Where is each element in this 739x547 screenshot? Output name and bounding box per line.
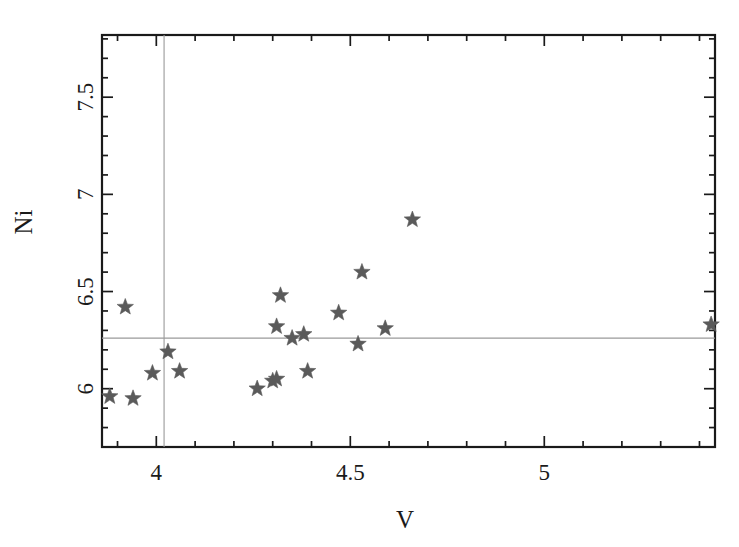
- x-tick-label: 4: [151, 460, 163, 485]
- data-point-star: [330, 304, 346, 320]
- x-tick-label: 5: [539, 460, 551, 485]
- scatter-plot-figure: 44.55 66.577.5 V Ni: [0, 0, 739, 547]
- data-point-star: [160, 343, 176, 359]
- plot-frame: [102, 35, 715, 447]
- data-point-star: [268, 318, 284, 334]
- data-point-star: [377, 320, 393, 336]
- data-point-star: [125, 390, 141, 406]
- data-points: [102, 211, 720, 405]
- data-point-star: [249, 380, 265, 396]
- data-point-star: [102, 388, 118, 404]
- data-point-star: [354, 263, 370, 279]
- x-axis-title: V: [396, 506, 414, 533]
- data-point-star: [117, 298, 133, 314]
- y-tick-label: 7: [73, 189, 98, 201]
- reference-lines: [102, 35, 715, 447]
- plot-border: [102, 35, 715, 447]
- x-tick-label: 4.5: [336, 460, 365, 485]
- data-point-star: [272, 287, 288, 303]
- y-tick-label: 6.5: [73, 277, 98, 306]
- data-point-star: [171, 363, 187, 379]
- data-point-star: [404, 211, 420, 227]
- y-axis-title: Ni: [10, 209, 37, 234]
- y-tick-label: 7.5: [73, 83, 98, 112]
- data-point-star: [144, 365, 160, 381]
- y-tick-label: 6: [73, 383, 98, 395]
- data-point-star: [703, 316, 719, 332]
- data-point-star: [296, 326, 312, 342]
- data-point-star: [299, 363, 315, 379]
- x-tick-labels: 44.55: [151, 460, 550, 485]
- y-tick-labels: 66.577.5: [73, 83, 98, 395]
- plot-canvas: 44.55 66.577.5 V Ni: [0, 0, 739, 547]
- axis-ticks: [102, 35, 715, 447]
